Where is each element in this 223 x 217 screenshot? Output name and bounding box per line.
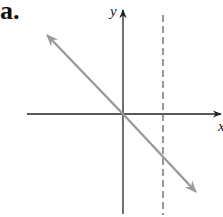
gray-line [47,35,123,114]
gray-line [123,114,196,192]
coordinate-plane: y x [0,0,223,217]
y-axis-label: y [108,3,117,19]
x-axis-label: x [217,118,223,134]
